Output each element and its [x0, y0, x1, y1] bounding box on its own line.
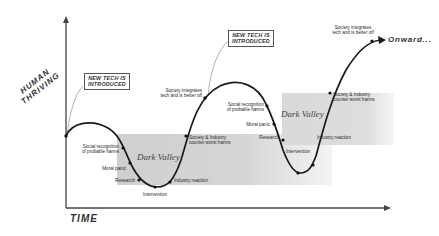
integrates-label-2: Society integrates tech and is better of…: [328, 25, 378, 35]
social-recognition-1-line2: of probable harms: [79, 149, 119, 154]
industry-reaction-label-1: Industry reaction: [174, 178, 208, 183]
y-axis: [63, 16, 69, 208]
social-recognition-label-2: Social recognition of probable harms: [224, 102, 264, 112]
industry-reaction-label-2: Industry reaction: [317, 135, 351, 140]
intervention-label-1: Intervention: [138, 192, 172, 197]
intervention-label-2: Intervention: [281, 149, 315, 154]
social-recognition-2-line2: of probable harms: [224, 107, 264, 112]
integrates-1-line2: tech and is better off: [154, 93, 202, 98]
onward-arrowhead: [378, 36, 386, 44]
research-label-2: Research: [249, 135, 279, 140]
counter-harms-label-2: Society & Industry counter worst harms: [333, 92, 375, 102]
counter-harms-2-line2: counter worst harms: [333, 97, 375, 102]
integrates-2-line2: tech and is better off: [328, 30, 378, 35]
social-recognition-label-1: Social recognition of probable harms: [79, 144, 119, 154]
dark-valley-label-1: Dark Valley: [137, 152, 180, 162]
counter-harms-label-1: Society & Industry counter worst harms: [189, 135, 231, 145]
x-axis: [66, 205, 391, 211]
new-tech-callout-1: NEW TECH IS INTRODUCED: [84, 73, 130, 90]
callout-2-line2: INTRODUCED: [232, 38, 270, 44]
onward-label: Onward...: [388, 35, 432, 44]
callout-1-line2: INTRODUCED: [88, 81, 126, 87]
counter-harms-1-line2: counter worst harms: [189, 140, 231, 145]
new-tech-callout-2: NEW TECH IS INTRODUCED: [228, 30, 274, 47]
integrates-label-1: Society integrates tech and is better of…: [154, 88, 202, 98]
dark-valley-label-2: Dark Valley: [281, 109, 324, 119]
research-label-1: Research: [105, 178, 135, 183]
moral-panic-label-2: Moral panic: [240, 122, 270, 127]
moral-panic-label-1: Moral panic: [96, 166, 126, 171]
x-axis-label: TIME: [70, 213, 98, 224]
